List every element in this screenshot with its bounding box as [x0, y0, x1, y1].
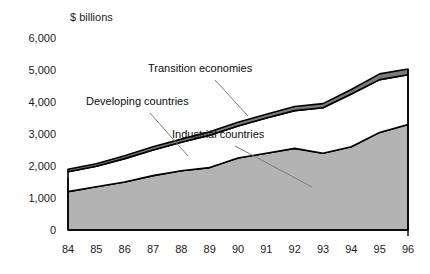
annotation-label: Developing countries: [86, 95, 189, 107]
annotation-label: Transition economies: [148, 62, 252, 74]
annotation-label: Industrial countries: [172, 128, 264, 140]
stacked-area-chart: $ billions 01,0002,0003,0004,0005,0006,0…: [0, 0, 430, 274]
annotation-leader-line: [215, 80, 248, 116]
